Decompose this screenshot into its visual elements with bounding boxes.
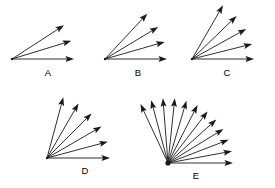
fan-label-e: E [193, 170, 199, 181]
fan-vertex [191, 58, 193, 60]
fan-label-a: A [45, 67, 52, 78]
fan-label-c: C [224, 67, 231, 78]
fan-vertex [46, 157, 48, 159]
fan-vertex [104, 58, 106, 60]
fan-vertex [11, 58, 13, 60]
figure-canvas: ABCDE [0, 0, 275, 188]
vector-fan-figure: ABCDE [0, 0, 275, 188]
figure-background [0, 0, 275, 188]
fan-vertex [165, 160, 170, 165]
fan-label-b: B [135, 67, 141, 78]
fan-label-d: D [82, 165, 89, 176]
